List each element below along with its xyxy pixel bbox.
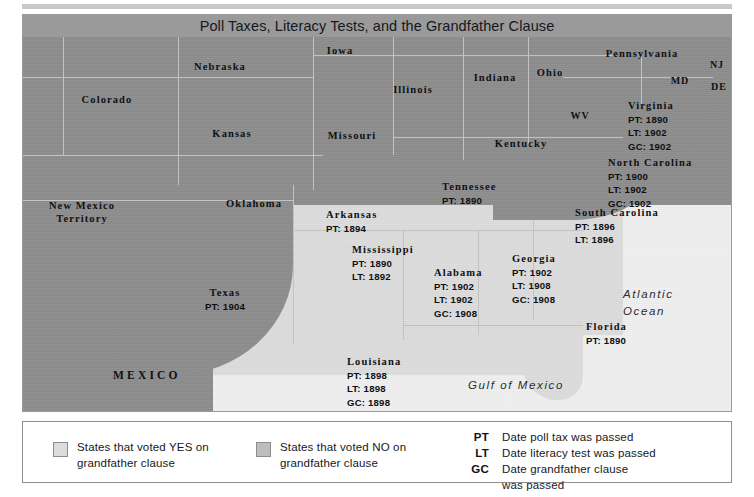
legend-abbr-gc: GC Date grandfather clause was passed bbox=[459, 462, 656, 492]
legend-abbr-gc-key: GC bbox=[459, 463, 489, 475]
mississippi-pt: PT: 1890 bbox=[352, 258, 414, 270]
north-carolina-pt: PT: 1900 bbox=[608, 171, 692, 183]
state-border bbox=[313, 35, 314, 190]
mississippi-name: Mississippi bbox=[352, 244, 414, 257]
state-label-oklahoma: Oklahoma bbox=[211, 198, 297, 211]
virginia-gc: GC: 1902 bbox=[628, 141, 674, 153]
louisiana-lt: LT: 1898 bbox=[347, 383, 401, 395]
texas-name: Texas bbox=[205, 287, 245, 300]
legend-abbr-lt: LT Date literacy test was passed bbox=[459, 446, 656, 461]
mississippi-lt: LT: 1892 bbox=[352, 271, 414, 283]
state-label-pennsylvania: Pennsylvania bbox=[586, 48, 698, 61]
georgia-name: Georgia bbox=[512, 253, 556, 266]
state-label-virginia: Virginia PT: 1890 LT: 1902 GC: 1902 bbox=[628, 100, 674, 153]
state-label-mississippi: Mississippi PT: 1890 LT: 1892 bbox=[352, 244, 414, 284]
legend-abbr-gc-def: Date grandfather clause was passed bbox=[502, 462, 628, 492]
state-border bbox=[641, 55, 642, 105]
alabama-name: Alabama bbox=[434, 267, 483, 280]
new-mexico-line1: New Mexico bbox=[49, 200, 115, 211]
south-carolina-name: South Carolina bbox=[575, 207, 659, 220]
state-label-tennessee: Tennessee PT: 1890 bbox=[442, 181, 496, 207]
tennessee-name: Tennessee bbox=[442, 181, 496, 194]
louisiana-pt: PT: 1898 bbox=[347, 370, 401, 382]
florida-pt: PT: 1890 bbox=[586, 335, 627, 347]
florida-name: Florida bbox=[586, 321, 627, 334]
atlantic-line1: Atlantic bbox=[623, 288, 674, 300]
alabama-lt: LT: 1902 bbox=[434, 294, 483, 306]
state-label-arkansas: Arkansas PT: 1894 bbox=[326, 209, 377, 235]
legend-abbr-pt-def: Date poll tax was passed bbox=[502, 430, 633, 445]
north-carolina-name: North Carolina bbox=[608, 157, 692, 170]
alabama-gc: GC: 1908 bbox=[434, 308, 483, 320]
south-carolina-lt: LT: 1896 bbox=[575, 234, 659, 246]
state-label-kansas: Kansas bbox=[195, 128, 269, 141]
state-label-south-carolina: South Carolina PT: 1896 LT: 1896 bbox=[575, 207, 659, 247]
map-figure: Poll Taxes, Literacy Tests, and the Gran… bbox=[22, 14, 732, 412]
state-label-georgia: Georgia PT: 1902 LT: 1908 GC: 1908 bbox=[512, 253, 556, 306]
alabama-pt: PT: 1902 bbox=[434, 281, 483, 293]
legend-abbr-lt-key: LT bbox=[459, 447, 489, 459]
legend-abbr-pt-key: PT bbox=[459, 431, 489, 443]
legend-text-yes: States that voted YES on grandfather cla… bbox=[77, 440, 209, 472]
legend-abbreviations: PT Date poll tax was passed LT Date lite… bbox=[459, 430, 656, 494]
map-title: Poll Taxes, Literacy Tests, and the Gran… bbox=[200, 18, 555, 34]
state-label-iowa: Iowa bbox=[311, 45, 369, 58]
tennessee-pt: PT: 1890 bbox=[442, 195, 496, 207]
state-label-nebraska: Nebraska bbox=[175, 61, 265, 74]
arkansas-pt: PT: 1894 bbox=[326, 223, 377, 235]
legend-item-voted-yes: States that voted YES on grandfather cla… bbox=[53, 440, 209, 472]
state-label-colorado: Colorado bbox=[61, 94, 153, 107]
new-mexico-line2: Territory bbox=[56, 213, 108, 224]
state-border bbox=[23, 77, 313, 78]
state-border bbox=[178, 35, 179, 185]
state-label-north-carolina: North Carolina PT: 1900 LT: 1902 GC: 190… bbox=[608, 157, 692, 210]
map-legend: States that voted YES on grandfather cla… bbox=[22, 421, 732, 483]
state-label-maryland: MD bbox=[664, 75, 696, 87]
state-label-west-virginia: WV bbox=[563, 110, 597, 122]
legend-abbr-lt-def: Date literacy test was passed bbox=[502, 446, 656, 461]
south-carolina-pt: PT: 1896 bbox=[575, 221, 659, 233]
state-label-delaware: DE bbox=[705, 81, 732, 93]
virginia-name: Virginia bbox=[628, 100, 674, 113]
legend-abbr-pt-def-line1: Date poll tax was passed bbox=[502, 431, 633, 443]
state-label-kentucky: Kentucky bbox=[481, 138, 561, 151]
gulf-of-mexico-label: Gulf of Mexico bbox=[468, 377, 564, 394]
north-carolina-lt: LT: 1902 bbox=[608, 184, 692, 196]
georgia-pt: PT: 1902 bbox=[512, 267, 556, 279]
virginia-pt: PT: 1890 bbox=[628, 114, 674, 126]
state-label-alabama: Alabama PT: 1902 LT: 1902 GC: 1908 bbox=[434, 267, 483, 320]
georgia-gc: GC: 1908 bbox=[512, 294, 556, 306]
arkansas-name: Arkansas bbox=[326, 209, 377, 222]
state-border bbox=[463, 35, 464, 160]
texas-pt: PT: 1904 bbox=[205, 301, 245, 313]
legend-abbr-pt: PT Date poll tax was passed bbox=[459, 430, 656, 445]
legend-swatch-no bbox=[256, 442, 271, 457]
mexico-label: MEXICO bbox=[113, 369, 181, 381]
atlantic-ocean-label: Atlantic Ocean bbox=[623, 286, 674, 319]
legend-abbr-lt-def-line1: Date literacy test was passed bbox=[502, 447, 656, 459]
legend-abbr-gc-def-line2: was passed bbox=[502, 479, 564, 491]
state-label-new-jersey: NJ bbox=[703, 59, 731, 71]
map-title-band: Poll Taxes, Literacy Tests, and the Gran… bbox=[23, 15, 731, 37]
state-label-ohio: Ohio bbox=[523, 67, 577, 80]
legend-yes-line2: grandfather clause bbox=[77, 457, 175, 469]
atlantic-line2: Ocean bbox=[623, 305, 665, 317]
state-label-louisiana: Louisiana PT: 1898 LT: 1898 GC: 1898 bbox=[347, 356, 401, 409]
state-label-new-mexico-territory: New Mexico Territory bbox=[32, 200, 132, 226]
legend-no-line2: grandfather clause bbox=[280, 457, 378, 469]
virginia-lt: LT: 1902 bbox=[628, 127, 674, 139]
state-label-florida: Florida PT: 1890 bbox=[586, 321, 627, 347]
louisiana-name: Louisiana bbox=[347, 356, 401, 369]
legend-yes-line1: States that voted YES on bbox=[77, 441, 209, 453]
state-label-missouri: Missouri bbox=[313, 130, 391, 143]
gulf-line1: Gulf of Mexico bbox=[468, 379, 564, 391]
state-border bbox=[403, 325, 583, 326]
legend-item-voted-no: States that voted NO on grandfather clau… bbox=[256, 440, 406, 472]
state-border bbox=[23, 155, 323, 156]
legend-no-line1: States that voted NO on bbox=[280, 441, 406, 453]
legend-abbr-gc-def-line1: Date grandfather clause bbox=[502, 463, 628, 475]
top-divider bbox=[22, 4, 732, 9]
page-root: Poll Taxes, Literacy Tests, and the Gran… bbox=[0, 0, 754, 497]
louisiana-gc: GC: 1898 bbox=[347, 397, 401, 409]
georgia-lt: LT: 1908 bbox=[512, 280, 556, 292]
